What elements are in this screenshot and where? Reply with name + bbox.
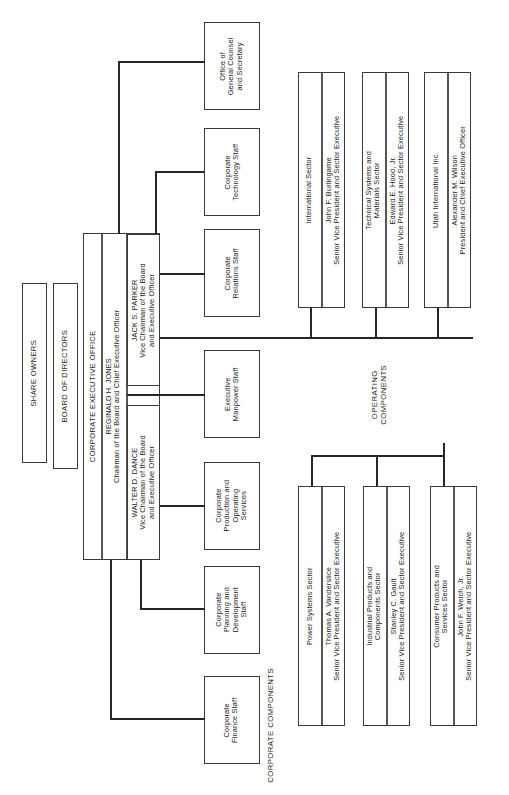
operating-unit-technical-systems: Technical Systems andMaterials Sector [362, 72, 385, 308]
connector-drop-utah-international [437, 307, 439, 338]
label-operating-components: OPERATINGCOMPONENTS [368, 340, 392, 450]
connector-drop-power-systems [311, 455, 313, 486]
operating-exec-utah-international: Alexander M. WilsonPresident and Chief E… [448, 72, 471, 308]
operating-exec-power-systems: Thomas A. VandersliceSenior Vice Preside… [322, 486, 345, 726]
connector-finance [110, 718, 205, 720]
connector-spine-dance [140, 560, 142, 610]
operating-unit-utah-international: Utah International Inc. [424, 72, 447, 308]
connector-production [160, 505, 205, 507]
operating-unit-power-systems: Power Systems Sector [298, 486, 321, 726]
staff-label-relations: CorporateRelations Staff [204, 229, 260, 317]
org-chart-canvas: SHARE OWNERS BOARD OF DIRECTORS CORPORAT… [0, 0, 509, 795]
connector-drop-consumer-products [443, 455, 445, 486]
connector-technology [155, 171, 205, 173]
board-of-directors-label: BOARD OF DIRECTORS [61, 330, 70, 423]
staff-label-planning: CorporatePlanning andDevelopmentStaff [204, 566, 260, 654]
staff-label-general-counsel: Office ofGeneral Counseland Secretary [204, 22, 260, 110]
connector-operating-bus [160, 337, 473, 339]
chairman-title: Chairman of the Board and Chief Executiv… [113, 310, 122, 483]
board-of-directors-box: BOARD OF DIRECTORS [53, 283, 78, 469]
chairman-cell: REGINALD H. JONESChairman of the Board a… [102, 234, 126, 559]
label-corporate-components: CORPORATE COMPONENTS [262, 660, 280, 790]
connector-drop-technical-systems [375, 307, 377, 338]
connector-manpower [127, 394, 205, 396]
operating-exec-international: John F. BurlingameSenior Vice President … [322, 72, 345, 308]
operating-exec-technical-systems: Edward E. Hood, Jr.Senior Vice President… [386, 72, 409, 308]
operating-exec-consumer-products: John F. Welch, Jr.Senior Vice President … [454, 486, 477, 726]
operating-unit-international: International Sector [298, 72, 321, 308]
operating-unit-consumer-products: Consumer Products andServices Sector [430, 486, 453, 726]
connector-spine-left [110, 560, 112, 720]
vice-chairman-dance-cell: WALTER D. DANCEVice Chairman of the Boar… [127, 405, 160, 560]
staff-label-production: CorporateProduction andOperatingServices [204, 462, 260, 550]
staff-label-manpower: ExecutiveManpower Staff [204, 350, 260, 438]
connector-drop-international [310, 307, 312, 338]
vice-chairman-parker-title-2: and Executive Officer [147, 273, 156, 346]
vice-chairman-dance-title-2: and Executive Officer [147, 446, 156, 519]
connector-spine-general-counsel [118, 62, 120, 234]
operating-unit-industrial-products: Industrial Products andComponents Sector [363, 486, 386, 726]
connector-planning [140, 608, 205, 610]
vice-chairman-parker-cell: JACK S. PARKERVice Chairman of the Board… [127, 234, 160, 386]
connector-relations [160, 273, 205, 275]
staff-label-finance: CorporateFinance Staff [204, 676, 260, 764]
connector-spine-technology [155, 172, 157, 234]
operating-exec-industrial-products: Stanley C. GaultSenior Vice President an… [387, 486, 410, 726]
corporate-executive-office-header: CORPORATE EXECUTIVE OFFICE [84, 234, 101, 559]
connector-general-counsel [118, 61, 205, 63]
connector-drop-industrial-products [376, 455, 378, 486]
staff-label-technology: CorporateTechnology Staff [204, 128, 260, 216]
share-owners-label: SHARE OWNERS [30, 340, 39, 407]
share-owners-box: SHARE OWNERS [22, 283, 47, 463]
